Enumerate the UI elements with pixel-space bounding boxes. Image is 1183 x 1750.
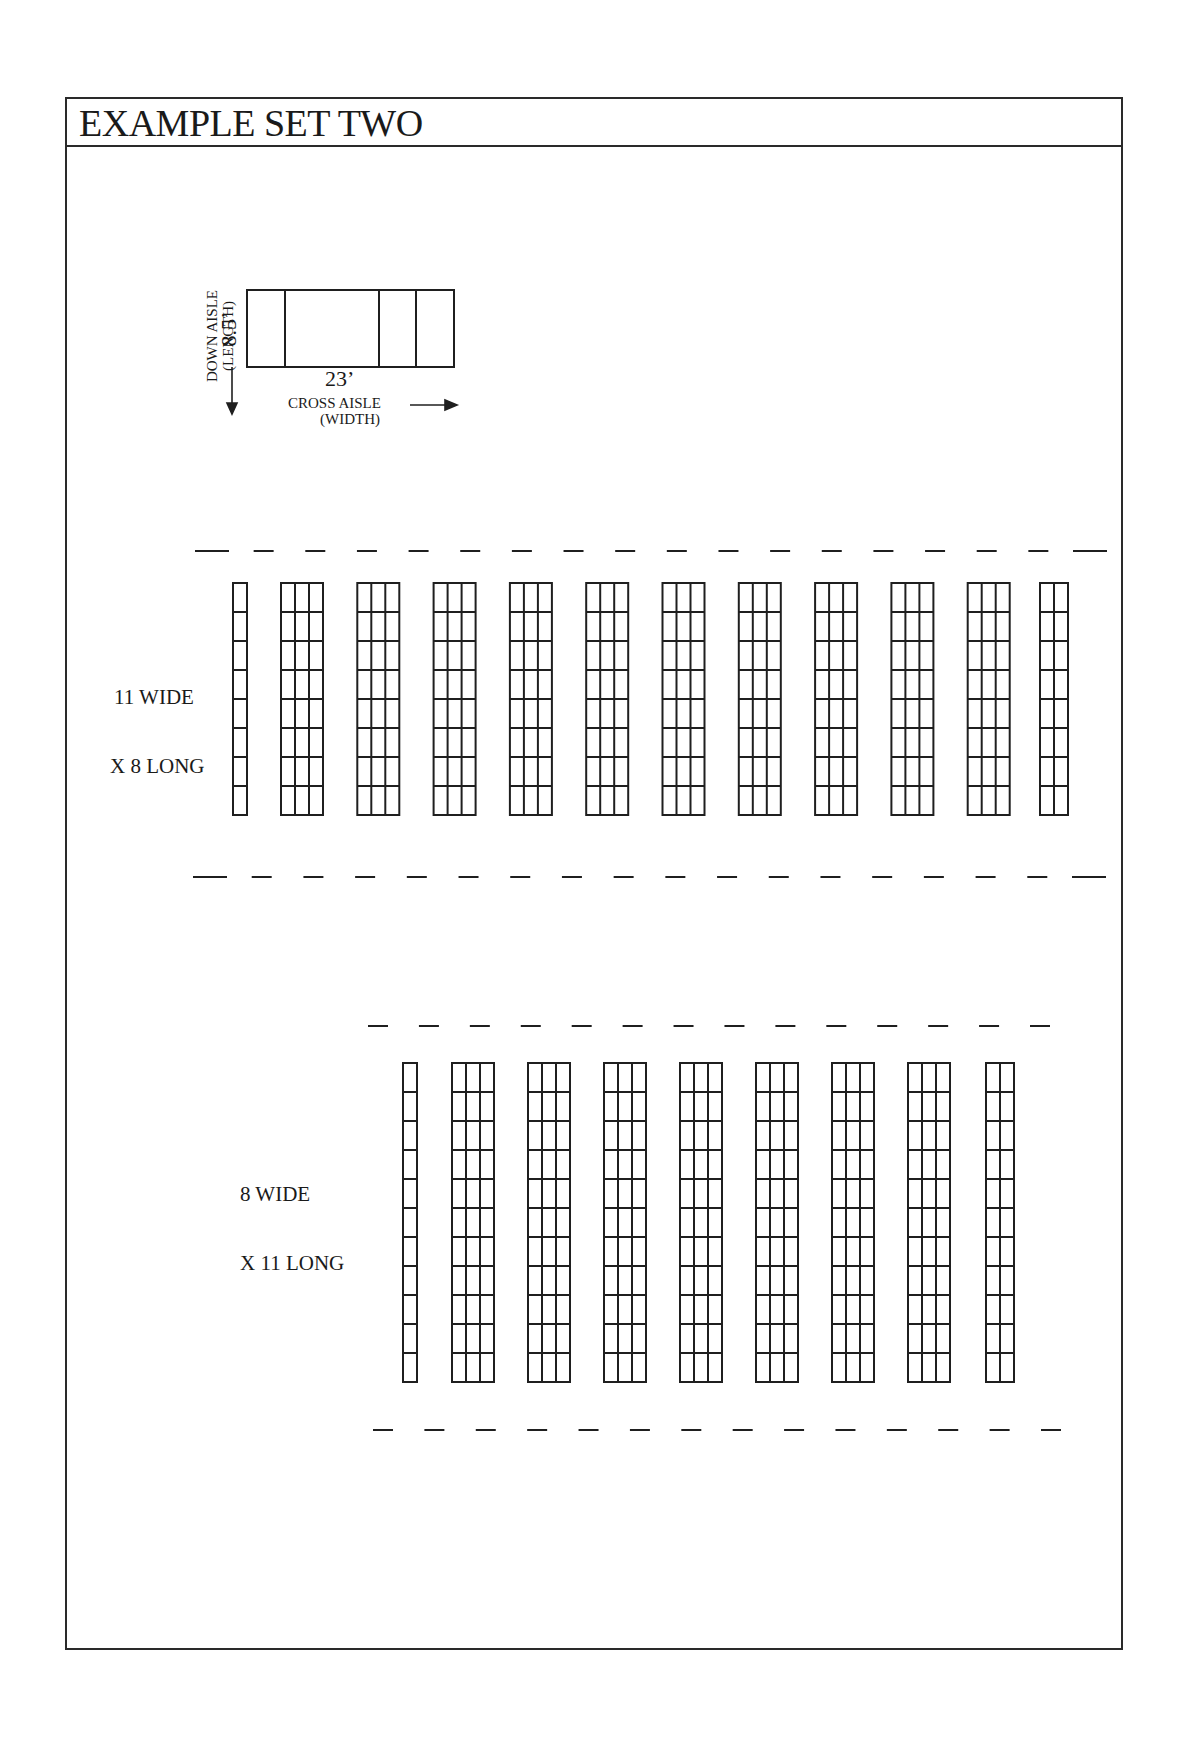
booth-column bbox=[908, 1063, 950, 1382]
booth-column bbox=[452, 1063, 494, 1382]
booth-column bbox=[528, 1063, 570, 1382]
booth-column bbox=[403, 1063, 417, 1382]
booth-column bbox=[756, 1063, 798, 1382]
booth-column bbox=[986, 1063, 1014, 1382]
booth-column bbox=[604, 1063, 646, 1382]
layout-two-grid bbox=[0, 0, 1183, 1750]
booth-column bbox=[680, 1063, 722, 1382]
booth-column bbox=[832, 1063, 874, 1382]
